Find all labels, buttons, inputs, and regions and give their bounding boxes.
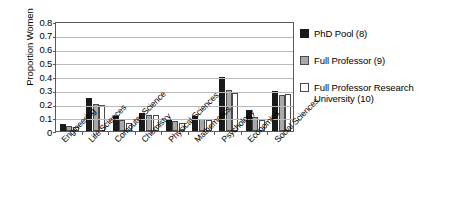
y-axis-tickmark xyxy=(53,37,56,38)
y-axis-tick-label: 0.4 xyxy=(26,73,52,82)
y-axis-tickmark xyxy=(53,132,56,133)
y-axis-tick-label: 0.1 xyxy=(26,114,52,123)
bar-chart: Proportion Women 0.80.70.60.50.40.30.20.… xyxy=(0,0,450,207)
legend-swatch-icon xyxy=(300,56,309,65)
y-axis-tickmark xyxy=(53,51,56,52)
x-axis-tickmark xyxy=(214,132,215,135)
y-axis-tick-labels: 0.80.70.60.50.40.30.20.10 xyxy=(26,18,52,132)
y-axis-tickmark xyxy=(53,64,56,65)
legend-label: Full Professor (9) xyxy=(314,55,385,66)
y-axis-tick-label: 0.6 xyxy=(26,45,52,54)
legend-item[interactable]: Full Professor (9) xyxy=(300,55,446,66)
y-axis-tick-label: 0.8 xyxy=(26,18,52,27)
x-axis-tickmark xyxy=(135,132,136,135)
legend-label: Full Professor Research University (10) xyxy=(314,82,446,104)
y-axis-tickmark xyxy=(53,119,56,120)
y-axis-tick-label: 0.7 xyxy=(26,31,52,40)
y-axis-tickmark xyxy=(53,106,56,107)
gridline xyxy=(56,64,293,65)
x-axis-tickmark xyxy=(108,132,109,135)
gridline xyxy=(56,119,293,120)
x-axis-tickmark xyxy=(241,132,242,135)
y-axis-tickmark xyxy=(53,92,56,93)
legend-swatch-icon xyxy=(300,29,309,38)
y-axis-tick-label: 0.3 xyxy=(26,86,52,95)
x-axis-tickmark xyxy=(267,132,268,135)
x-axis-tickmark xyxy=(188,132,189,135)
x-axis-tickmark xyxy=(82,132,83,135)
legend-swatch-icon xyxy=(300,83,309,92)
x-axis-tickmark xyxy=(161,132,162,135)
y-axis-tick-label: 0.5 xyxy=(26,59,52,68)
bar-group xyxy=(56,23,83,131)
legend-item[interactable]: PhD Pool (8) xyxy=(300,28,446,39)
chart-legend: PhD Pool (8)Full Professor (9)Full Profe… xyxy=(300,28,446,120)
legend-label: PhD Pool (8) xyxy=(314,28,367,39)
gridline xyxy=(56,37,293,38)
y-axis-tick-label: 0.2 xyxy=(26,100,52,109)
gridline xyxy=(56,78,293,79)
gridline xyxy=(56,92,293,93)
legend-item[interactable]: Full Professor Research University (10) xyxy=(300,82,446,104)
y-axis-tickmark xyxy=(53,23,56,24)
gridline xyxy=(56,51,293,52)
y-axis-tick-label: 0 xyxy=(26,128,52,137)
y-axis-tickmark xyxy=(53,78,56,79)
